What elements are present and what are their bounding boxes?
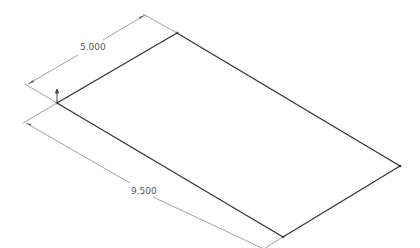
sketch-canvas: 5.000 9.500 (0, 0, 420, 248)
edge-top-right[interactable] (177, 33, 400, 166)
dimension-line (28, 55, 78, 84)
extension-line (23, 103, 57, 123)
edge-bottom-left[interactable] (57, 103, 283, 237)
dimension-line (103, 15, 145, 40)
dimension-line (153, 197, 262, 248)
extension-line (265, 237, 283, 248)
extension-line (143, 14, 177, 33)
dimension-label-length[interactable]: 9.500 (131, 186, 157, 196)
origin-axis-icon (56, 89, 59, 102)
dimension-9500[interactable] (23, 103, 283, 248)
dimension-label-width[interactable]: 5.000 (80, 42, 106, 52)
extension-line (25, 84, 57, 103)
rectangle-sketch[interactable] (57, 33, 400, 237)
vertices (56, 32, 402, 239)
dimension-5000[interactable] (25, 14, 177, 103)
dimension-line (26, 123, 130, 183)
edge-bottom-right[interactable] (283, 166, 400, 237)
vertex[interactable] (399, 165, 402, 168)
edge-top-left[interactable] (57, 33, 177, 103)
